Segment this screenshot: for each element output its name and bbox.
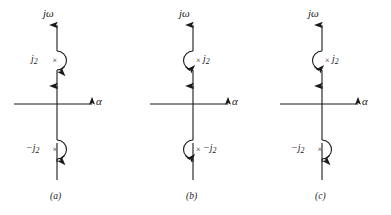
pole-label-lower: −j2 bbox=[291, 143, 304, 155]
panel-caption-b: (b) bbox=[186, 192, 197, 202]
contour-indent-lower-arrowhead bbox=[60, 156, 64, 160]
contour-indent-upper-arrowhead bbox=[315, 67, 319, 71]
imaginary-axis-label: jω bbox=[308, 8, 319, 19]
contour-indent-lower-right bbox=[322, 140, 332, 159]
pole-marker-lower: × bbox=[196, 146, 201, 154]
panel-caption-c: (c) bbox=[315, 192, 326, 202]
pole-label-lower: −j2 bbox=[203, 143, 216, 155]
contour-indent-upper-left bbox=[184, 51, 194, 70]
pole-label-upper-sub: 2 bbox=[206, 57, 210, 66]
pole-label-lower-prefix: − bbox=[203, 142, 210, 153]
panel-a-diagram bbox=[0, 0, 130, 215]
panel-a: jω α j2 × −j2 × (a) bbox=[0, 0, 130, 215]
pole-marker-upper: × bbox=[325, 57, 330, 65]
pole-label-lower-prefix: − bbox=[291, 142, 298, 153]
imaginary-axis-label: jω bbox=[179, 8, 190, 19]
pole-label-upper-sub: 2 bbox=[34, 57, 38, 66]
figure-root: jω α j2 × −j2 × (a) bbox=[0, 0, 391, 215]
pole-label-lower-prefix: − bbox=[26, 142, 33, 153]
contour-indent-upper-arrowhead bbox=[186, 67, 190, 71]
pole-label-upper: j2 bbox=[203, 54, 210, 66]
panel-b: jω α × j2 × −j2 (b) bbox=[130, 0, 260, 215]
pole-label-lower-sub: 2 bbox=[213, 146, 217, 155]
real-axis-label: α bbox=[96, 96, 102, 107]
contour-indent-upper-right bbox=[57, 51, 67, 70]
contour-indent-lower-arrowhead bbox=[186, 156, 190, 160]
contour-indent-lower-left bbox=[184, 140, 194, 159]
contour-indent-lower-arrowhead bbox=[325, 156, 329, 160]
pole-marker-lower: × bbox=[53, 146, 58, 154]
pole-label-lower-sub: 2 bbox=[36, 146, 40, 155]
contour-indent-upper-arrowhead bbox=[60, 67, 64, 71]
real-axis-label: α bbox=[362, 96, 368, 107]
pole-marker-upper: × bbox=[196, 57, 201, 65]
panel-c: jω α × j2 −j2 × (c) bbox=[261, 0, 391, 215]
pole-label-upper-sub: 2 bbox=[335, 57, 339, 66]
panel-b-diagram bbox=[130, 0, 260, 215]
pole-label-upper: j2 bbox=[31, 54, 38, 66]
pole-label-lower: −j2 bbox=[26, 143, 39, 155]
pole-marker-upper: × bbox=[53, 57, 58, 65]
panel-c-diagram bbox=[261, 0, 391, 215]
panel-caption-a: (a) bbox=[50, 192, 61, 202]
pole-label-upper: j2 bbox=[332, 54, 339, 66]
real-axis-label: α bbox=[232, 96, 238, 107]
contour-indent-upper-left bbox=[313, 51, 323, 70]
pole-label-lower-sub: 2 bbox=[301, 146, 305, 155]
contour-indent-lower-right bbox=[57, 140, 67, 159]
pole-marker-lower: × bbox=[318, 146, 323, 154]
imaginary-axis-label: jω bbox=[43, 8, 54, 19]
